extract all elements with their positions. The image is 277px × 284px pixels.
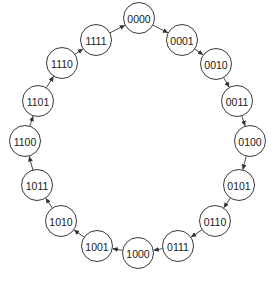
arrow-0111-to-1000 [154,249,163,251]
state-node-1001: 1001 [82,231,113,262]
state-node-0011: 0011 [222,86,253,117]
arrow-0110-to-0111 [191,230,202,237]
node-label: 0110 [204,216,227,228]
node-label: 0011 [226,96,249,108]
state-node-1000: 1000 [123,238,154,269]
node-label: 1011 [26,180,49,192]
node-label: 1101 [27,96,50,108]
node-label: 1000 [126,248,150,260]
arrow-1111-to-0000 [110,25,125,33]
arrow-1101-to-1110 [46,77,53,88]
node-label: 0001 [170,35,194,47]
arrow-1100-to-1101 [30,116,33,126]
node-label: 1010 [49,216,73,228]
state-node-0001: 0001 [167,25,198,56]
state-node-0010: 0010 [201,49,232,80]
state-node-0100: 0100 [235,126,266,157]
state-node-1100: 1100 [10,126,41,157]
state-node-0101: 0101 [224,170,255,201]
node-label: 0100 [238,136,262,148]
state-node-1011: 1011 [22,170,53,201]
arrow-0001-to-0010 [195,49,203,55]
arrow-1011-to-1100 [29,156,33,170]
node-label: 1001 [85,241,109,253]
arrow-0011-to-0100 [242,116,245,126]
arrow-0101-to-0110 [224,198,231,208]
node-label: 1100 [14,136,37,148]
node-label: 0010 [204,59,228,71]
arrow-0010-to-0011 [224,77,229,87]
node-label: 1111 [85,35,106,47]
state-node-1110: 1110 [47,48,78,79]
arrow-1000-to-1001 [113,249,123,251]
arrow-1001-to-1010 [74,230,84,237]
state-node-1010: 1010 [46,206,77,237]
node-label: 1110 [51,58,73,70]
node-layer: 0000000100100011010001010110011110001001… [10,3,266,269]
state-node-0000: 0000 [124,3,155,34]
arrow-0100-to-0101 [243,156,246,169]
state-node-0110: 0110 [200,206,231,237]
node-label: 0000 [127,13,151,25]
node-label: 0101 [227,180,251,192]
arrow-1110-to-1111 [75,49,83,54]
state-node-0111: 0111 [163,231,194,262]
node-label: 0111 [167,241,189,253]
arrow-0000-to-0001 [153,25,168,33]
state-node-1111: 1111 [81,25,112,56]
arrow-1010-to-1011 [46,198,53,208]
state-node-1101: 1101 [23,86,54,117]
state-ring-diagram: 0000000100100011010001010110011110001001… [0,0,277,284]
